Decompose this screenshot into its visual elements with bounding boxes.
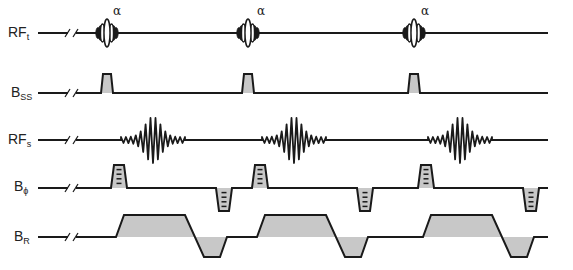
b-phi-waveform [76,165,548,211]
rf-pulse-icon [104,19,110,47]
row-label-b-ss: BSS [11,84,32,102]
flip-angle-label-1: α [113,4,121,18]
row-label-b-phi: Bϕ [14,178,28,196]
row-label-rf-t: RFt [8,24,29,42]
readout-lobe-positive [423,215,502,237]
row-label-rf-s: RFs [8,131,31,149]
b-ss-waveform [76,74,548,93]
flip-angle-label-3: α [421,4,429,18]
readout-lobe-positive [116,215,195,237]
readout-lobe-positive [257,215,336,237]
rf-pulse-icon [411,19,417,47]
row-label-b-r: BR [14,228,30,246]
pulse-sequence-diagram [0,0,573,270]
flip-angle-label-2: α [257,4,265,18]
rf-pulse-icon [245,19,251,47]
rf-s-echo-waveform [76,118,548,163]
